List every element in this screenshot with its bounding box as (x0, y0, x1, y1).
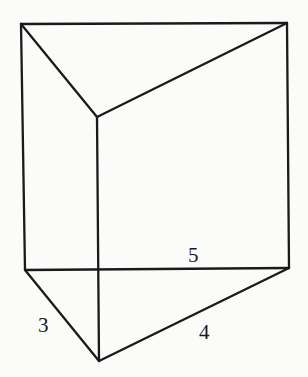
label-hypotenuse: 5 (188, 243, 199, 267)
label-right-leg: 4 (199, 320, 210, 344)
edge-top-right (97, 23, 287, 117)
edge-vertical-front (97, 117, 99, 361)
edge-vertical-left (21, 24, 25, 270)
edge-top-left (21, 24, 97, 117)
prism-diagram: 5 3 4 (0, 0, 308, 377)
edge-top-back (21, 23, 287, 24)
prism-svg: 5 3 4 (0, 0, 308, 377)
edge-bottom-right (99, 268, 289, 361)
edge-bottom-left (25, 270, 99, 361)
edge-bottom-back (25, 268, 289, 270)
label-left-leg: 3 (38, 313, 49, 337)
edge-vertical-right (287, 23, 289, 268)
